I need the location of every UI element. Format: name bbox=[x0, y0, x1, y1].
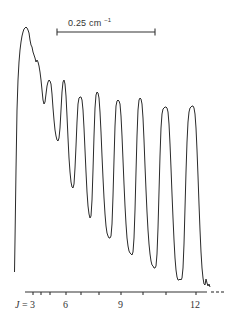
tick-label-12: 12 bbox=[190, 299, 200, 310]
scale-bar-label: 0.25 cm −1 bbox=[68, 17, 111, 28]
tick-label-9: 9 bbox=[118, 299, 123, 310]
tick-label-6: 6 bbox=[63, 299, 68, 310]
tick-label-j3: J = 3 bbox=[15, 299, 35, 310]
scale-bar-exponent: −1 bbox=[104, 17, 111, 23]
spectrum-figure: 0.25 cm −1 J = 3 6 9 12 bbox=[0, 0, 233, 322]
spectrum-plot bbox=[0, 0, 233, 322]
scale-bar-text: 0.25 cm bbox=[68, 18, 101, 28]
j-equals-3: = 3 bbox=[19, 299, 35, 310]
x-axis bbox=[25, 292, 224, 295]
spectrum-trace bbox=[15, 27, 211, 287]
scale-bar bbox=[57, 29, 155, 36]
